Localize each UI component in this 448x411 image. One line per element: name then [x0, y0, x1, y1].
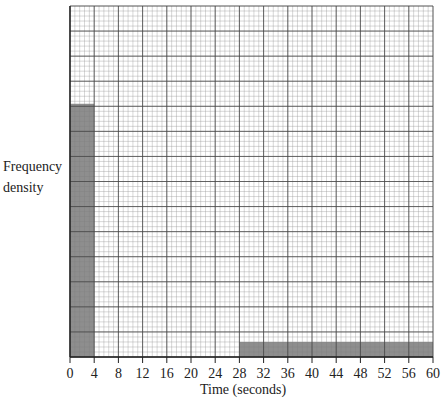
x-tick-label: 32: [257, 366, 271, 382]
x-tick-label: 12: [136, 366, 150, 382]
x-tick-label: 4: [91, 366, 98, 382]
x-axis-label: Time (seconds): [200, 382, 286, 398]
x-tick-label: 24: [208, 366, 222, 382]
x-tick-label: 44: [329, 366, 343, 382]
x-tick-label: 48: [353, 366, 367, 382]
x-tick-label: 60: [426, 366, 440, 382]
x-tick-label: 52: [378, 366, 392, 382]
x-tick-label: 20: [184, 366, 198, 382]
x-tick-label: 56: [402, 366, 416, 382]
x-tick-label: 8: [115, 366, 122, 382]
x-tick-label: 0: [67, 366, 74, 382]
histogram-bar: [70, 104, 94, 357]
histogram-chart: [0, 0, 448, 411]
x-tick-label: 28: [232, 366, 246, 382]
x-tick-label: 40: [305, 366, 319, 382]
x-tick-label: 36: [281, 366, 295, 382]
y-axis-label: Frequencydensity: [3, 156, 62, 198]
x-tick-label: 16: [160, 366, 174, 382]
